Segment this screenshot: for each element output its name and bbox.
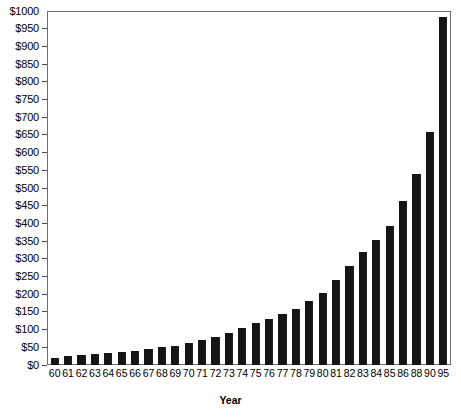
bar [345,266,353,365]
y-axis-tick-label: $1000 [9,6,42,17]
x-axis-tick-label: 69 [169,367,181,380]
x-axis-tick-label: 64 [102,367,114,380]
bar [158,347,166,365]
y-axis-tick-mark [42,241,47,242]
bar [144,349,152,365]
bar-series [48,12,450,365]
x-axis-tick-label: 85 [384,367,396,380]
bar [171,346,179,365]
y-axis-tick-label: $900 [15,41,42,52]
x-axis-tick-label: 86 [397,367,409,380]
x-axis-tick-label: 81 [330,367,342,380]
y-axis-tick-label: $750 [15,94,42,105]
y-axis-tick-label: $450 [15,200,42,211]
bar [118,352,126,365]
y-axis-tick-label: $400 [15,218,42,229]
y-axis-tick-label: $500 [15,183,42,194]
y-axis-tick-label: $50 [21,342,42,353]
y-axis-tick-label: $350 [15,236,42,247]
y-axis-tick-label: $600 [15,147,42,158]
bar [359,252,367,365]
bar [426,132,434,365]
x-axis-tick-label: 80 [317,367,329,380]
x-axis-tick-label: 82 [344,367,356,380]
x-axis-tick-label: 60 [49,367,61,380]
bar [91,354,99,365]
bar [439,17,447,365]
x-axis-tick-label: 79 [303,367,315,380]
y-axis-tick-mark [42,134,47,135]
x-axis-title: Year [0,394,461,406]
x-axis-tick-label: 71 [196,367,208,380]
x-axis-tick-label: 78 [290,367,302,380]
bar [131,351,139,365]
y-axis-tick-mark [42,46,47,47]
x-axis-tick-label: 72 [210,367,222,380]
bar [225,333,233,365]
bar [104,353,112,365]
y-axis-tick-mark [42,223,47,224]
x-axis-tick-label: 84 [370,367,382,380]
x-axis-tick-label: 95 [437,367,449,380]
x-axis-tick-label: 73 [223,367,235,380]
bar [292,309,300,365]
bar [265,319,273,365]
y-axis-tick-label: $650 [15,129,42,140]
y-axis-tick-mark [42,64,47,65]
x-axis: 6061626364656667686970717273747576777879… [48,367,450,383]
x-axis-tick-label: 74 [236,367,248,380]
bar [412,174,420,365]
x-axis-tick-label: 61 [62,367,74,380]
y-axis-tick-label: $0 [27,360,42,371]
x-axis-tick-label: 88 [411,367,423,380]
x-axis-tick-label: 83 [357,367,369,380]
y-axis-tick-mark [42,170,47,171]
y-axis-tick-mark [42,28,47,29]
y-axis-tick-mark [42,99,47,100]
x-axis-tick-label: 62 [76,367,88,380]
x-axis-tick-label: 67 [143,367,155,380]
y-axis-tick-mark [42,258,47,259]
bar-chart: $0$50$100$150$200$250$300$350$400$450$50… [0,0,461,417]
bar [64,356,72,365]
y-axis-tick-label: $950 [15,23,42,34]
bar [399,201,407,365]
x-axis-tick-label: 66 [129,367,141,380]
bar [278,314,286,365]
bar [77,355,85,365]
bar [386,226,394,365]
x-axis-tick-label: 63 [89,367,101,380]
bar [319,293,327,365]
y-axis-tick-mark [42,276,47,277]
y-axis-tick-label: $100 [15,324,42,335]
y-axis-tick-mark [42,152,47,153]
y-axis-tick-mark [42,205,47,206]
y-axis-tick-mark [42,347,47,348]
x-axis-tick-label: 75 [250,367,262,380]
y-axis-tick-mark [42,81,47,82]
y-axis-tick-mark [42,365,47,366]
x-axis-tick-label: 68 [156,367,168,380]
y-axis-tick-mark [42,329,47,330]
bar [305,301,313,365]
bar [238,328,246,365]
x-axis-tick-label: 65 [116,367,128,380]
y-axis-tick-label: $850 [15,59,42,70]
bar [252,323,260,365]
bar [211,337,219,365]
y-axis-tick-mark [42,188,47,189]
bar [185,343,193,365]
x-axis-tick-label: 76 [263,367,275,380]
bar [372,240,380,365]
x-axis-tick-label: 90 [424,367,436,380]
y-axis-tick-label: $550 [15,165,42,176]
y-axis-tick-label: $250 [15,271,42,282]
x-axis-tick-label: 77 [277,367,289,380]
y-axis: $0$50$100$150$200$250$300$350$400$450$50… [0,11,47,365]
y-axis-tick-label: $200 [15,289,42,300]
y-axis-tick-mark [42,11,47,12]
bar [198,340,206,365]
x-axis-tick-label: 70 [183,367,195,380]
y-axis-tick-label: $150 [15,306,42,317]
y-axis-tick-mark [42,311,47,312]
